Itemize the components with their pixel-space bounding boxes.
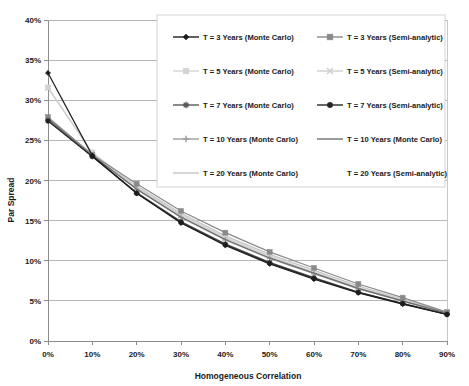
x-tick-label: 70% (350, 350, 366, 359)
y-tick-label: 0% (29, 337, 41, 346)
marker-square (400, 295, 405, 300)
legend-item-label: T = 20 Years (Monte Carlo) (203, 169, 298, 178)
marker-circle (46, 119, 51, 124)
y-tick-label: 5% (29, 297, 41, 306)
y-tick-label: 10% (25, 257, 41, 266)
legend-item-label: T = 7 Years (Semi-analytic) (347, 101, 443, 110)
x-tick-label: 50% (262, 350, 278, 359)
legend-item-label: T = 10 Years (Monte Carlo) (203, 135, 298, 144)
y-tick-label: 15% (25, 217, 41, 226)
x-axis-title: Homogeneous Correlation (195, 371, 302, 381)
marker-square (356, 282, 361, 287)
y-tick-label: 25% (25, 136, 41, 145)
marker-square (134, 181, 139, 186)
legend-item-label: T = 7 Years (Monte Carlo) (203, 101, 294, 110)
x-tick-label: 90% (439, 350, 455, 359)
legend-item-label: T = 20 Years (Semi-analytic) (347, 169, 448, 178)
x-tick-label: 20% (129, 350, 145, 359)
chart-figure: 0%5%10%15%20%25%30%35%40% 0%10%20%30%40%… (0, 0, 469, 386)
x-tick-label: 30% (173, 350, 189, 359)
marker-star (183, 102, 189, 108)
legend-item-label: T = 5 Years (Monte Carlo) (203, 67, 294, 76)
x-tick-label: 60% (306, 350, 322, 359)
legend-item-9[interactable]: T = 20 Years (Semi-analytic) (347, 169, 448, 178)
x-tick-label: 10% (84, 350, 100, 359)
marker-square (179, 208, 184, 213)
legend-item-label: T = 3 Years (Semi-analytic) (347, 33, 443, 42)
x-tick-label: 80% (395, 350, 411, 359)
x-tick-label: 0% (42, 350, 54, 359)
marker-square (183, 68, 189, 74)
marker-square (223, 230, 228, 235)
legend-item-label: T = 5 Years (Semi-analytic) (347, 67, 443, 76)
legend-item-label: T = 10 Years (Monte Carlo) (347, 135, 442, 144)
marker-square (327, 34, 333, 40)
marker-square (312, 265, 317, 270)
y-tick-label: 40% (25, 16, 41, 25)
y-tick-label: 30% (25, 96, 41, 105)
y-tick-label: 20% (25, 177, 41, 186)
y-tick-label: 35% (25, 56, 41, 65)
par-spread-line-chart: 0%5%10%15%20%25%30%35%40% 0%10%20%30%40%… (0, 0, 469, 386)
legend-item-label: T = 3 Years (Monte Carlo) (203, 33, 294, 42)
marker-square (267, 249, 272, 254)
chart-legend: T = 3 Years (Monte Carlo)T = 3 Years (Se… (157, 15, 448, 187)
y-axis-title: Par Spread (6, 178, 16, 223)
marker-circle (327, 102, 333, 108)
x-tick-label: 40% (217, 350, 233, 359)
